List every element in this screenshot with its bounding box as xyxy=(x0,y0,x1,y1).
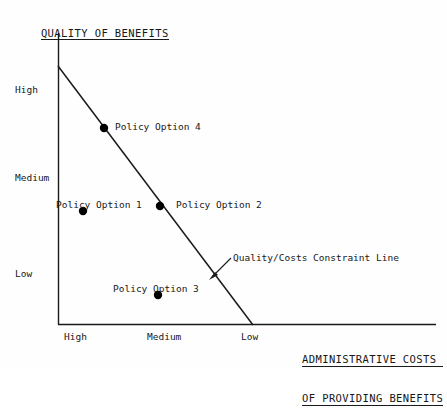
y-tick-label-high: High xyxy=(15,84,38,95)
constraint-line-arrow xyxy=(209,258,231,280)
data-label-policy-option-2: Policy Option 2 xyxy=(176,199,262,210)
data-label-policy-option-3: Policy Option 3 xyxy=(113,283,199,294)
y-axis-title: QUALITY OF BENEFITS xyxy=(14,14,169,52)
x-tick-label-low: Low xyxy=(241,331,258,342)
y-axis-title-text: QUALITY OF BENEFITS xyxy=(41,27,169,41)
x-axis-title-line-2: OF PROVIDING BENEFITS xyxy=(302,392,443,406)
annotation-constraint-line: Quality/Costs Constraint Line xyxy=(233,252,399,263)
y-tick-label-low: Low xyxy=(15,268,32,279)
x-tick-label-high: High xyxy=(64,331,87,342)
y-tick-label-medium: Medium xyxy=(15,172,49,183)
marker-policy-option-2 xyxy=(156,202,164,210)
marker-policy-option-4 xyxy=(100,124,108,132)
data-label-policy-option-4: Policy Option 4 xyxy=(115,121,201,132)
data-label-policy-option-1: Policy Option 1 xyxy=(56,199,142,210)
x-tick-label-medium: Medium xyxy=(147,331,181,342)
x-axis-title: ADMINISTRATIVE COSTS OF PROVIDING BENEFI… xyxy=(302,328,443,410)
x-axis-title-line-1: ADMINISTRATIVE COSTS xyxy=(302,353,443,367)
